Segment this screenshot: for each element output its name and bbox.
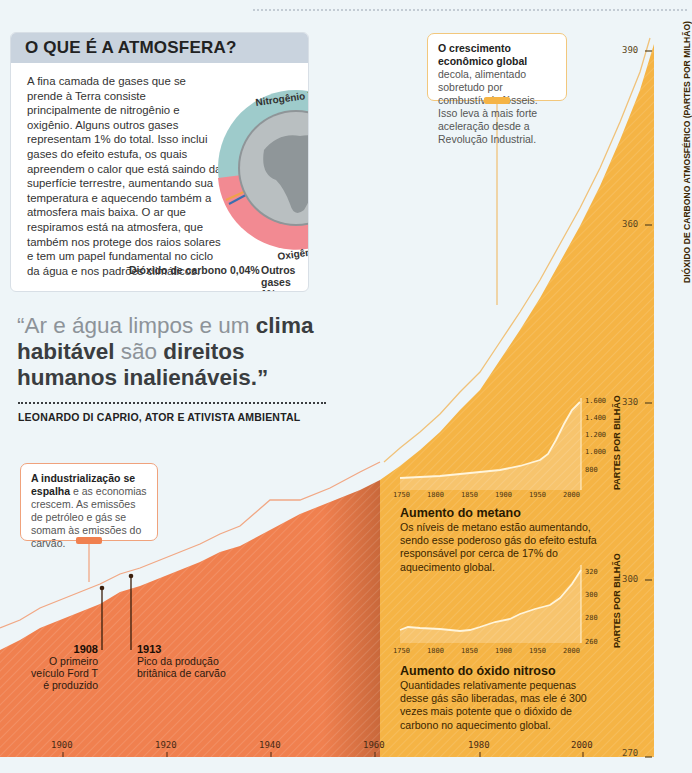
event-text: Pico da produção britânica de carvão [137, 655, 247, 679]
callout-tab [484, 97, 510, 104]
y-tick: 300 [622, 574, 638, 584]
nitrous-title: Aumento do óxido nitroso [400, 664, 556, 678]
nitrous-y-tick: 260 [585, 638, 598, 646]
nitrous-x-tick: 1750 [393, 647, 410, 655]
methane-x-tick: 2000 [563, 491, 580, 499]
y-tick: 390 [622, 45, 638, 55]
methane-y-tick: 800 [585, 466, 598, 474]
methane-y-tick: 1.600 [585, 397, 606, 405]
economic-callout-text: decola, alimentado sobretudo por combust… [438, 68, 538, 145]
methane-description: Os níveis de metano estão aumentando, se… [400, 521, 605, 574]
nitrous-x-tick: 1800 [427, 647, 444, 655]
callout-tab [76, 537, 102, 544]
x-tick: 1980 [468, 740, 490, 750]
economic-callout-bold: O crescimento econômico global [438, 42, 527, 67]
x-tick: 1900 [51, 740, 73, 750]
economic-growth-callout: O crescimento econômico global decola, a… [427, 33, 567, 101]
x-tick: 1940 [259, 740, 281, 750]
industrialization-callout: A industrialização se espalha e as econo… [20, 463, 158, 541]
nitrous-description: Quantidades relativamente pequenas desse… [400, 679, 605, 732]
event-1908: 1908 O primeiro veículo Ford T é produzi… [28, 643, 98, 691]
methane-title: Aumento do metano [400, 506, 521, 520]
atmosphere-donut-chart: Nitrogênio 78% Oxigênio 21% [204, 70, 309, 260]
nitrous-y-tick: 320 [585, 568, 598, 576]
event-year: 1908 [28, 643, 98, 655]
quote: “Ar e água limpos e um clima habitável s… [17, 313, 347, 391]
y-tick: 360 [622, 219, 638, 229]
nitrous-x-tick: 1950 [529, 647, 546, 655]
x-tick: 2000 [571, 740, 593, 750]
co2-label: Dióxido de carbono 0,04% [129, 264, 260, 276]
atmosphere-title: O QUE É A ATMOSFERA? [11, 33, 308, 63]
methane-y-tick: 1.400 [585, 414, 606, 422]
nitrous-x-tick: 1850 [461, 647, 478, 655]
x-tick: 1960 [363, 740, 385, 750]
nitrous-y-tick: 280 [585, 614, 598, 622]
quote-divider [18, 402, 326, 404]
methane-x-tick: 1800 [427, 491, 444, 499]
methane-y-tick: 1.200 [585, 431, 606, 439]
event-1913: 1913 Pico da produção britânica de carvã… [137, 643, 247, 679]
methane-x-tick: 1900 [495, 491, 512, 499]
methane-x-tick: 1850 [461, 491, 478, 499]
atmosphere-description: A fina camada de gases que se prende à T… [27, 74, 223, 278]
methane-x-tick: 1750 [393, 491, 410, 499]
other-gases-label: Outros gases 1% [261, 264, 308, 292]
nitrous-axis-title: PARTES POR BILHÃO [612, 553, 622, 648]
event-year: 1913 [137, 643, 247, 655]
nitrous-y-tick: 300 [585, 591, 598, 599]
quote-part: “Ar e água limpos e um [17, 313, 256, 338]
event-text: O primeiro veículo Ford T é produzido [28, 655, 98, 691]
methane-y-tick: 1.000 [585, 448, 606, 456]
y-tick: 270 [622, 748, 638, 758]
methane-axis-title: PARTES POR BILHÃO [612, 395, 622, 490]
x-tick: 1920 [155, 740, 177, 750]
nitrous-x-tick: 2000 [563, 647, 580, 655]
nitrous-x-tick: 1900 [495, 647, 512, 655]
y-axis-title: DIÓXIDO DE CARBONO ATMOSFÉRICO (PARTES P… [682, 21, 692, 283]
atmosphere-info-box: O QUE É A ATMOSFERA? A fina camada de ga… [10, 32, 309, 292]
y-tick: 330 [622, 397, 638, 407]
quote-author: LEONARDO DI CAPRIO, ATOR E ATIVISTA AMBI… [18, 411, 300, 423]
quote-part: são [115, 339, 164, 364]
methane-x-tick: 1950 [529, 491, 546, 499]
